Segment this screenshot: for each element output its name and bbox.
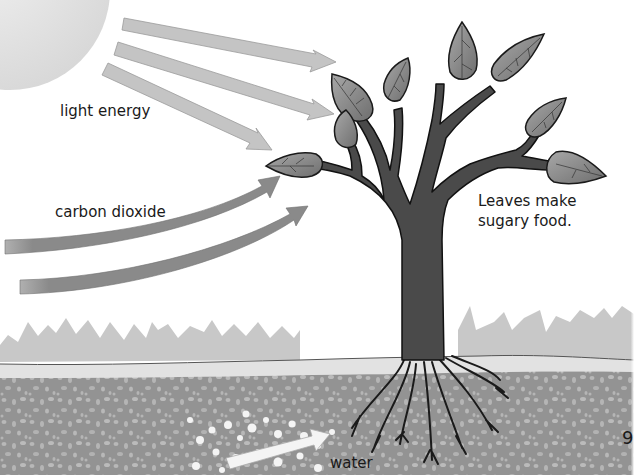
leaf — [332, 74, 373, 121]
leaf — [547, 151, 606, 183]
grass — [0, 306, 634, 362]
leaf — [384, 58, 410, 101]
soil — [0, 372, 634, 475]
leaves-make-food-label: Leaves make sugary food. — [478, 191, 588, 231]
carbon-dioxide-label: carbon dioxide — [55, 202, 166, 222]
leaf — [266, 153, 322, 178]
leaf — [449, 22, 477, 79]
light-energy-label: light energy — [60, 101, 150, 121]
photosynthesis-diagram — [0, 0, 634, 475]
carbon-dioxide-arrows — [5, 176, 308, 294]
water-label: water — [330, 453, 373, 473]
sun-icon — [0, 0, 110, 90]
page-number: 9 — [622, 428, 633, 448]
light-energy-arrows — [102, 18, 336, 150]
